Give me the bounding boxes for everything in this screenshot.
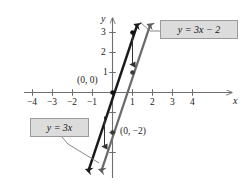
x-tick-label-1: 1	[130, 98, 135, 108]
y-tick-label-3: 3	[101, 28, 106, 38]
y-intercept-point-label: (0, −2)	[120, 127, 146, 137]
point-0-0	[110, 90, 115, 95]
equation-label-y-equals-3x: y = 3x	[30, 118, 89, 137]
point-0-minus-2	[110, 130, 115, 135]
point-1-3	[130, 30, 135, 35]
x-tick-label-3: 3	[170, 98, 175, 108]
coordinate-graph-figure: −4 −3 −2 −1 1 2 3 4 3 2 1 y x (0, 0) (0,…	[0, 0, 247, 187]
origin-point-label: (0, 0)	[77, 76, 98, 86]
equation-label-y-equals-3x-minus-2: y = 3x − 2	[160, 20, 238, 39]
y-tick-label-1: 1	[103, 68, 108, 78]
x-tick-label-2: 2	[150, 98, 155, 108]
y-tick-label-2: 2	[101, 48, 106, 58]
x-tick-label-minus-1: −1	[87, 98, 97, 108]
x-axis-name: x	[233, 96, 237, 106]
callout-leader-bottom	[62, 137, 99, 163]
x-tick-label-minus-3: −3	[47, 98, 57, 108]
x-tick-label-4: 4	[190, 98, 195, 108]
line-y-equals-3x-minus-2	[102, 26, 151, 171]
y-axis-name: y	[101, 14, 105, 24]
x-tick-label-minus-2: −2	[67, 98, 77, 108]
x-tick-label-minus-4: −4	[27, 98, 37, 108]
point-1-1	[130, 70, 135, 75]
